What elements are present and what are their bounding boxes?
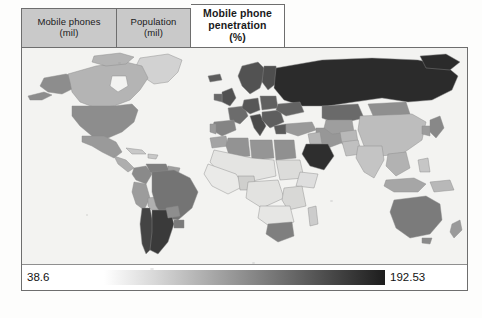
tab-mobile-phone-penetration[interactable]: Mobile phone penetration (%) xyxy=(191,4,285,48)
world-map-svg xyxy=(22,48,467,267)
region-madagascar xyxy=(308,206,318,226)
region-iraq xyxy=(308,132,322,144)
region-paraguay xyxy=(166,206,180,218)
tab-strip-filler xyxy=(285,4,468,48)
legend-gradient-bar xyxy=(104,270,385,285)
tab-population[interactable]: Population (mil) xyxy=(117,8,191,48)
tab-strip: Mobile phones (mil) Population (mil) Mob… xyxy=(21,4,468,48)
region-hispaniola xyxy=(148,154,158,159)
legend-min-value: 38.6 xyxy=(22,272,104,284)
region-portugal xyxy=(210,124,216,134)
region-poland xyxy=(260,96,278,110)
map-panel: 38.6 192.53 xyxy=(21,47,468,291)
map-legend: 38.6 192.53 xyxy=(22,264,467,290)
region-philippines xyxy=(418,158,430,172)
region-new-guinea xyxy=(430,180,454,192)
world-map[interactable] xyxy=(22,48,467,267)
tab-mobile-phones[interactable]: Mobile phones (mil) xyxy=(21,8,117,48)
region-egypt xyxy=(274,140,296,160)
region-libya xyxy=(250,140,274,160)
region-greece xyxy=(274,124,286,134)
region-tasmania xyxy=(422,238,432,244)
tab-mobile-phone-penetration-label: Mobile phone penetration (%) xyxy=(203,8,272,43)
region-korea xyxy=(422,126,430,136)
region-uruguay xyxy=(174,220,184,228)
region-horn-of-africa xyxy=(296,172,318,188)
tab-population-label: Population (mil) xyxy=(121,17,186,38)
legend-max-value: 192.53 xyxy=(385,272,467,284)
region-morocco xyxy=(210,136,228,148)
screenshot-root: Mobile phones (mil) Population (mil) Mob… xyxy=(0,0,482,318)
tab-mobile-phones-label: Mobile phones (mil) xyxy=(37,17,100,38)
choropleth-map-widget: Mobile phones (mil) Population (mil) Mob… xyxy=(21,4,468,291)
